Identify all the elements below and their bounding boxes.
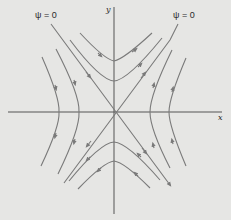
y-axis-label: y [106,5,111,15]
psi-zero-line-positive-slope [64,24,178,183]
streamline-diagram [0,0,231,220]
streamline-top-outer [70,38,162,81]
psi-zero-label-left: ψ = 0 [35,10,57,20]
x-axis-label: x [218,113,223,123]
streamline-top-inner [80,33,152,61]
psi-zero-label-right: ψ = 0 [173,10,195,20]
psi-zero-line-negative-slope [51,24,170,185]
